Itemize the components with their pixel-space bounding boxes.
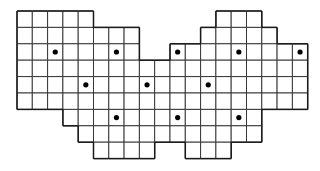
lattice-cell xyxy=(262,77,277,93)
lattice-cell xyxy=(63,60,78,76)
lattice-cell xyxy=(48,60,63,76)
lattice-cell xyxy=(231,93,246,109)
lattice-cell xyxy=(48,93,63,109)
lattice-cell xyxy=(17,44,32,60)
lattice-cell xyxy=(185,60,200,76)
lattice-cell xyxy=(63,11,78,27)
lattice-cell xyxy=(247,27,262,43)
lattice-cell xyxy=(78,93,93,109)
lattice-cell xyxy=(216,44,231,60)
lattice-cell xyxy=(170,126,185,142)
lattice-cell xyxy=(247,109,262,125)
lattice-cell xyxy=(109,60,124,76)
lattice-cell xyxy=(32,60,47,76)
cell-marker-dot xyxy=(144,82,149,87)
lattice-cell xyxy=(94,142,109,158)
lattice-cell xyxy=(48,27,63,43)
lattice-cell xyxy=(216,60,231,76)
lattice-cell xyxy=(32,44,47,60)
lattice-cell xyxy=(139,142,154,158)
lattice-cell xyxy=(94,93,109,109)
lattice-cell xyxy=(63,109,78,125)
lattice-cell xyxy=(231,11,246,27)
lattice-cell xyxy=(201,109,216,125)
lattice-cell xyxy=(63,27,78,43)
lattice-cell xyxy=(32,27,47,43)
lattice-cell xyxy=(155,60,170,76)
cell-marker-dot xyxy=(206,82,211,87)
lattice-cell xyxy=(201,126,216,142)
lattice-cell xyxy=(124,27,139,43)
lattice-cell xyxy=(216,93,231,109)
lattice-cell xyxy=(247,60,262,76)
lattice-cell xyxy=(32,11,47,27)
lattice-cell xyxy=(201,60,216,76)
lattice-cell xyxy=(201,44,216,60)
lattice-cell xyxy=(124,77,139,93)
lattice-cell xyxy=(109,27,124,43)
lattice-cell xyxy=(170,77,185,93)
lattice-cell xyxy=(78,109,93,125)
lattice-cell xyxy=(48,77,63,93)
lattice-svg xyxy=(0,0,320,171)
lattice-cell xyxy=(155,109,170,125)
lattice-cell xyxy=(94,60,109,76)
cell-marker-dot xyxy=(114,49,119,54)
lattice-cell xyxy=(94,109,109,125)
lattice-cell xyxy=(94,27,109,43)
lattice-cell xyxy=(185,77,200,93)
lattice-figure xyxy=(0,0,320,171)
lattice-cell xyxy=(185,142,200,158)
lattice-cell xyxy=(216,126,231,142)
lattice-cell xyxy=(124,93,139,109)
lattice-cell xyxy=(17,27,32,43)
lattice-cell xyxy=(185,126,200,142)
lattice-cell xyxy=(63,93,78,109)
lattice-cell xyxy=(185,109,200,125)
lattice-cell xyxy=(155,126,170,142)
lattice-cell xyxy=(262,60,277,76)
lattice-cell xyxy=(139,93,154,109)
lattice-cell xyxy=(155,93,170,109)
lattice-cell xyxy=(231,27,246,43)
lattice-cell xyxy=(124,44,139,60)
lattice-cell xyxy=(201,142,216,158)
lattice-cell xyxy=(262,44,277,60)
cell-marker-dot xyxy=(83,82,88,87)
lattice-cell xyxy=(78,44,93,60)
cell-marker-dot xyxy=(236,115,241,120)
cell-marker-dot xyxy=(297,49,302,54)
lattice-cell xyxy=(78,27,93,43)
lattice-cell xyxy=(94,44,109,60)
cell-marker-dot xyxy=(175,115,180,120)
lattice-cell xyxy=(185,93,200,109)
lattice-cell xyxy=(139,126,154,142)
lattice-cell xyxy=(17,11,32,27)
lattice-cell xyxy=(94,126,109,142)
lattice-cell xyxy=(231,60,246,76)
lattice-cell xyxy=(109,142,124,158)
lattice-cell xyxy=(277,77,292,93)
lattice-cell xyxy=(292,93,307,109)
lattice-cell xyxy=(124,109,139,125)
lattice-cell xyxy=(94,77,109,93)
lattice-cell xyxy=(155,77,170,93)
lattice-cell xyxy=(170,93,185,109)
lattice-cell xyxy=(216,109,231,125)
lattice-cell xyxy=(170,60,185,76)
lattice-cell xyxy=(201,93,216,109)
lattice-cell xyxy=(109,126,124,142)
lattice-cells-group xyxy=(17,11,308,159)
lattice-cell xyxy=(216,27,231,43)
lattice-cell xyxy=(17,60,32,76)
lattice-cell xyxy=(124,126,139,142)
lattice-cell xyxy=(109,77,124,93)
lattice-cell xyxy=(63,44,78,60)
lattice-cell xyxy=(78,11,93,27)
lattice-cell xyxy=(78,126,93,142)
lattice-cell xyxy=(78,60,93,76)
lattice-cell xyxy=(277,93,292,109)
lattice-cell xyxy=(185,44,200,60)
lattice-cell xyxy=(124,142,139,158)
lattice-cell xyxy=(277,60,292,76)
